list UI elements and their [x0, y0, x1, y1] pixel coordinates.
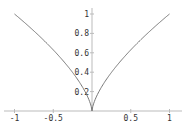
x-tick-label: 0.5 [124, 114, 139, 123]
x-tick-label: -1 [10, 114, 20, 123]
x-tick-label: 1 [167, 114, 172, 123]
x-tick-label: -0.5 [44, 114, 63, 123]
y-tick-label: 0.8 [75, 29, 90, 38]
y-tick-label: 1 [84, 10, 89, 19]
y-ticks: 0.20.40.60.81 [75, 10, 94, 97]
plot: -1-0.50.51 0.20.40.60.81 [0, 0, 182, 126]
y-tick-label: 0.6 [75, 49, 90, 58]
y-tick-label: 0.4 [75, 68, 90, 77]
